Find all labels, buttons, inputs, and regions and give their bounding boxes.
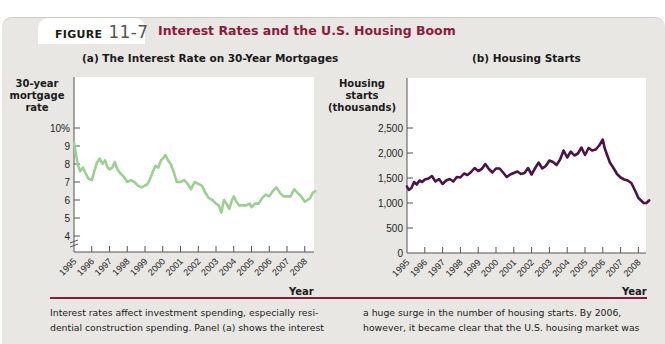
charts-svg: 45678910%1995199619971998199920002001200… bbox=[0, 0, 665, 344]
y-tick-label: 1,000 bbox=[378, 198, 403, 209]
chart-housing-starts: 05001,0001,5002,0002,5001995199619971998… bbox=[378, 78, 649, 279]
y-tick-label: 1,500 bbox=[378, 173, 403, 184]
y-tick-label: 6 bbox=[64, 195, 70, 206]
x-tick-label: 2008 bbox=[288, 256, 309, 277]
x-tick-label: 2007 bbox=[604, 257, 625, 278]
y-tick-label: 4 bbox=[64, 231, 70, 242]
x-tick-label: 2001 bbox=[497, 257, 518, 278]
caption-divider bbox=[50, 297, 647, 299]
x-tick-label: 2002 bbox=[181, 256, 202, 277]
caption-line: however, it became clear that the U.S. h… bbox=[363, 320, 639, 335]
x-tick-label: 2007 bbox=[270, 256, 291, 277]
x-tick-label: 2005 bbox=[568, 257, 589, 278]
x-tick-label: 2003 bbox=[533, 257, 554, 278]
x-tick-label: 2005 bbox=[235, 256, 256, 277]
x-tick-label: 1999 bbox=[128, 256, 149, 277]
x-tick-label: 1996 bbox=[75, 256, 96, 277]
y-tick-label: 2,000 bbox=[378, 148, 403, 159]
x-tick-label: 1997 bbox=[93, 256, 114, 277]
x-tick-label: 1995 bbox=[390, 257, 411, 278]
x-tick-label: 1999 bbox=[461, 257, 482, 278]
x-tick-label: 1997 bbox=[426, 257, 447, 278]
x-tick-label: 2003 bbox=[199, 256, 220, 277]
caption-left: Interest rates affect investment spendin… bbox=[50, 305, 324, 335]
caption-line: a huge surge in the number of housing st… bbox=[363, 305, 639, 320]
x-tick-label: 1998 bbox=[444, 257, 465, 278]
y-tick-label: 7 bbox=[64, 177, 70, 188]
caption-line: dential construction spending. Panel (a)… bbox=[50, 320, 324, 335]
plot-area bbox=[407, 78, 646, 253]
y-tick-label: 500 bbox=[386, 223, 403, 234]
y-tick-label: 0 bbox=[397, 248, 403, 259]
x-tick-label: 2006 bbox=[252, 256, 273, 277]
x-tick-label: 2004 bbox=[217, 256, 238, 277]
x-tick-label: 1995 bbox=[57, 256, 78, 277]
y-tick-label: 8 bbox=[64, 159, 70, 170]
x-tick-label: 2000 bbox=[146, 256, 167, 277]
x-tick-label: 2002 bbox=[515, 257, 536, 278]
y-tick-label: 2,500 bbox=[378, 123, 403, 134]
chart-mortgage-rate: 45678910%1995199619971998199920002001200… bbox=[50, 77, 315, 278]
caption-line: Interest rates affect investment spendin… bbox=[50, 305, 324, 320]
plot-area bbox=[74, 77, 314, 252]
y-tick-label: 5 bbox=[64, 213, 70, 224]
y-tick-label: 10% bbox=[50, 123, 70, 134]
x-tick-label: 1996 bbox=[408, 257, 429, 278]
y-tick-label: 9 bbox=[64, 141, 70, 152]
caption-right: a huge surge in the number of housing st… bbox=[363, 305, 639, 335]
x-tick-label: 1998 bbox=[110, 256, 131, 277]
x-tick-label: 2008 bbox=[622, 257, 643, 278]
x-tick-label: 2000 bbox=[479, 257, 500, 278]
x-tick-label: 2006 bbox=[586, 257, 607, 278]
x-tick-label: 2004 bbox=[550, 257, 571, 278]
x-tick-label: 2001 bbox=[164, 256, 185, 277]
